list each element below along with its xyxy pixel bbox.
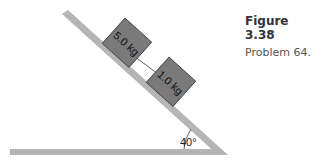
rope [134, 56, 158, 74]
figure-caption: Figure 3.38 Problem 64. [245, 14, 321, 59]
angle-label: 40° [180, 136, 197, 148]
block-5kg: 5.0 kg [102, 18, 152, 67]
figure-title: Figure 3.38 [245, 14, 321, 42]
block-1kg: 1.0 kg [146, 57, 196, 106]
incline-surface [62, 10, 228, 155]
ground-surface [10, 149, 222, 155]
figure-subtitle: Problem 64. [245, 46, 321, 59]
